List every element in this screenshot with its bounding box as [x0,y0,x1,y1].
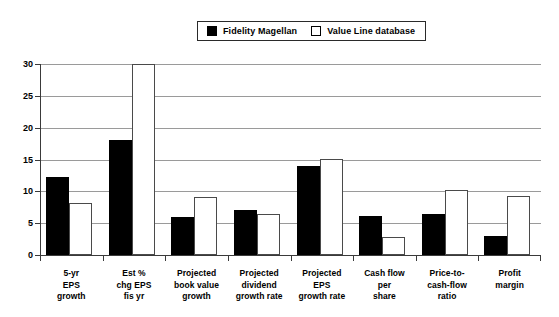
x-tick-mark [165,256,166,261]
x-tick-mark [540,256,541,261]
x-tick-mark [291,256,292,261]
bar-series-container [40,64,541,255]
chart-legend: Fidelity Magellan Value Line database [197,21,426,41]
bar-group [171,64,217,255]
bar [109,140,132,255]
bar [507,196,530,255]
x-axis-ticks [40,256,541,262]
bar-group [109,64,155,255]
y-tick-label: 30 [3,60,33,69]
bar [69,203,92,255]
legend-entry-fidelity-magellan: Fidelity Magellan [207,26,297,36]
y-tick-label: 20 [3,124,33,133]
legend-label: Fidelity Magellan [223,26,297,36]
x-tick-mark [40,256,41,261]
bar [132,64,155,255]
bar-group [422,64,468,255]
filled-square-icon [207,26,217,36]
hollow-square-icon [311,26,321,36]
legend-label: Value Line database [327,26,415,36]
bar [382,237,405,255]
bar-group [46,64,92,255]
bar [445,190,468,255]
x-axis-label: Profitmargin [472,268,547,291]
bar [297,166,320,255]
bar-group [234,64,280,255]
y-tick-label: 0 [3,251,33,260]
bar [320,159,343,255]
bar [484,236,507,255]
bar [359,216,382,255]
bar [257,214,280,255]
bar [422,214,445,255]
legend-entry-value-line-database: Value Line database [311,26,415,36]
bar-group [297,64,343,255]
x-tick-mark [478,256,479,261]
y-tick-label: 5 [3,219,33,228]
bar [234,210,257,255]
x-tick-mark [416,256,417,261]
bar [194,197,217,255]
x-axis-labels: 5-yrEPSgrowthEst %chg EPSfis yrProjected… [40,268,541,313]
bar [46,177,69,255]
bar-group [484,64,530,255]
x-tick-mark [353,256,354,261]
y-tick-label: 25 [3,92,33,101]
x-tick-mark [103,256,104,261]
y-tick-label: 10 [3,187,33,196]
bar [171,217,194,255]
bar-group [359,64,405,255]
x-tick-mark [228,256,229,261]
y-tick-label: 15 [3,156,33,165]
y-axis-labels: 051015202530 [0,64,33,255]
